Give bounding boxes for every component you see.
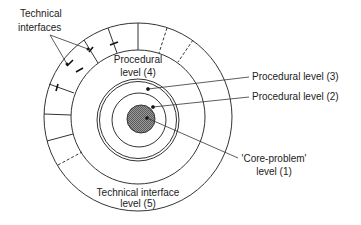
label-procedural-level-4-2: level (4): [120, 67, 156, 78]
label-core-problem-1: 'Core-problem': [242, 153, 307, 164]
label-technical-interfaces-1: Technical: [20, 8, 62, 19]
label-technical-interface-level-5-2: level (5): [120, 198, 156, 209]
label-procedural-level-4-1: Procedural: [114, 54, 162, 65]
band-dividers: [44, 23, 193, 165]
label-procedural-level-2: Procedural level (2): [252, 91, 339, 102]
core-problem-circle: [127, 105, 155, 133]
label-core-problem-2: level (1): [256, 166, 292, 177]
technical-interfaces-leaders: [50, 35, 88, 64]
label-technical-interfaces-2: interfaces: [18, 22, 61, 33]
label-procedural-level-3: Procedural level (3): [252, 71, 339, 82]
concentric-levels-diagram: Technical interfaces Procedural level (4…: [0, 0, 361, 225]
label-technical-interface-level-5-1: Technical interface: [97, 187, 180, 198]
